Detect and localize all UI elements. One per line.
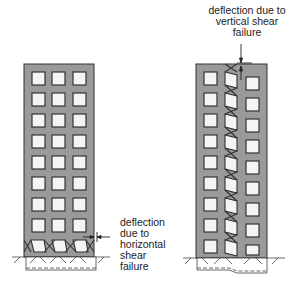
- right-building: [183, 44, 285, 273]
- horizontal-shear-annotation: deflection due to horizontal shear failu…: [120, 217, 166, 272]
- annotation-line: failure: [120, 261, 166, 272]
- right-ground: [183, 258, 285, 273]
- left-shear-failure-storey: [24, 240, 94, 252]
- left-building: [12, 64, 110, 270]
- right-building-left-windows: [204, 72, 217, 253]
- vertical-shear-annotation: deflection due to vertical shear failure: [197, 5, 297, 38]
- annotation-line: failure: [197, 27, 297, 38]
- left-ground: [12, 257, 110, 270]
- right-building-right-windows: [246, 77, 259, 255]
